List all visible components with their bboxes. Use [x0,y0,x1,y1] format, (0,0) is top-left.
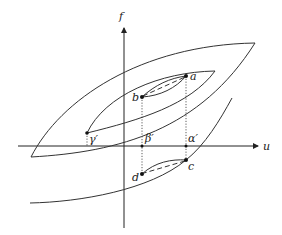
label-gamma-prime: γ′ [89,133,99,146]
outer-loop-upper-branch [31,43,255,157]
horizontal-axis-label: u [263,140,270,153]
label-alpha-prime: α′ [188,132,198,145]
outer-loop-lower-branch [31,43,255,157]
label-beta-prime: β′ [144,132,154,145]
dashed-chord-ba [143,77,185,96]
point-beta [141,145,144,148]
point-a [184,74,188,78]
point-b [140,95,144,99]
inner-loop-cd-upper [142,160,186,174]
vertical-axis-label: f [118,10,125,23]
label-c: c [188,160,194,173]
label-d: d [132,171,139,184]
label-a: a [190,70,197,83]
label-b: b [132,91,139,104]
point-d [140,172,144,176]
lower-descending-curve [30,98,232,203]
hysteresis-diagram: f u a b c d γ′ β′ α′ [0,0,282,235]
dashed-chord-cd [144,161,185,173]
